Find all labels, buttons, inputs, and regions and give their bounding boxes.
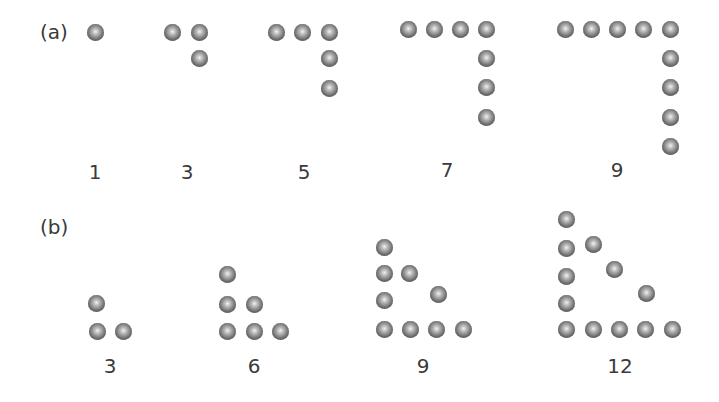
dot-icon — [426, 21, 443, 38]
dot-icon — [478, 21, 495, 38]
dot-icon — [662, 79, 679, 96]
dot-icon — [89, 323, 106, 340]
dot-icon — [478, 79, 495, 96]
dot-icon — [558, 268, 575, 285]
count-label: 9 — [417, 356, 430, 376]
dot-icon — [662, 138, 679, 155]
dot-icon — [294, 24, 311, 41]
dot-icon — [478, 50, 495, 67]
dot-icon — [455, 321, 472, 338]
dot-icon — [428, 321, 445, 338]
dot-icon — [376, 239, 393, 256]
dot-icon — [164, 24, 181, 41]
dot-icon — [246, 323, 263, 340]
dot-icon — [87, 24, 104, 41]
dot-icon — [191, 50, 208, 67]
dot-icon — [662, 109, 679, 126]
dot-icon — [662, 50, 679, 67]
dot-icon — [558, 240, 575, 257]
dot-icon — [585, 321, 602, 338]
dot-icon — [606, 261, 623, 278]
dot-icon — [452, 21, 469, 38]
dot-icon — [662, 21, 679, 38]
dot-icon — [583, 21, 600, 38]
dot-icon — [611, 321, 628, 338]
dot-icon — [402, 321, 419, 338]
dot-icon — [321, 24, 338, 41]
dot-icon — [585, 236, 602, 253]
dot-icon — [401, 265, 418, 282]
dot-icon — [376, 265, 393, 282]
dot-icon — [609, 21, 626, 38]
dot-icon — [376, 292, 393, 309]
dot-icon — [430, 286, 447, 303]
count-label: 9 — [611, 160, 624, 180]
count-label: 3 — [181, 162, 194, 182]
count-label: 6 — [248, 356, 261, 376]
dot-icon — [219, 296, 236, 313]
dot-icon — [219, 266, 236, 283]
dot-icon — [219, 323, 236, 340]
dot-icon — [246, 296, 263, 313]
dot-icon — [191, 24, 208, 41]
dot-icon — [637, 321, 654, 338]
count-label: 5 — [298, 162, 311, 182]
dot-icon — [321, 50, 338, 67]
part-label-a: (a) — [40, 22, 68, 42]
dot-icon — [558, 321, 575, 338]
count-label: 12 — [607, 356, 632, 376]
dot-icon — [557, 21, 574, 38]
dot-icon — [664, 321, 681, 338]
dot-icon — [558, 211, 575, 228]
dot-icon — [88, 295, 105, 312]
dot-icon — [321, 80, 338, 97]
dot-icon — [558, 295, 575, 312]
dot-icon — [478, 109, 495, 126]
dot-icon — [376, 321, 393, 338]
dot-icon — [400, 21, 417, 38]
count-label: 7 — [441, 160, 454, 180]
dot-icon — [638, 285, 655, 302]
count-label: 3 — [104, 356, 117, 376]
dot-icon — [272, 323, 289, 340]
dot-icon — [268, 24, 285, 41]
part-label-b: (b) — [40, 217, 68, 237]
dot-icon — [635, 21, 652, 38]
dot-icon — [115, 323, 132, 340]
count-label: 1 — [89, 162, 102, 182]
